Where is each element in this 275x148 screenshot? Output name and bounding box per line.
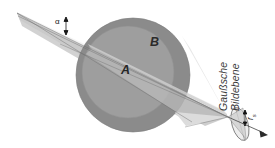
gaussian-image-plane-label-line1: Gaußsche	[217, 62, 229, 111]
angle-label-alpha: α	[55, 18, 60, 26]
angle-marker-alpha	[64, 17, 68, 35]
angle-marker-arrow-top	[64, 17, 68, 21]
gaussian-image-plane-label: Gaußsche Bildebene	[218, 39, 275, 111]
radius-label-rs: rs	[246, 114, 257, 120]
radius-label-rs-symbol: r	[245, 117, 255, 120]
radius-label-rs-subscript: s	[251, 114, 257, 117]
figure-canvas: A B α Gaußsche Bildebene rs	[0, 0, 275, 148]
angle-marker-arrow-bottom	[64, 31, 68, 35]
region-label-a: A	[121, 64, 130, 77]
gaussian-image-plane-label-line2: Bildebene	[230, 39, 241, 111]
region-label-b: B	[150, 36, 159, 49]
